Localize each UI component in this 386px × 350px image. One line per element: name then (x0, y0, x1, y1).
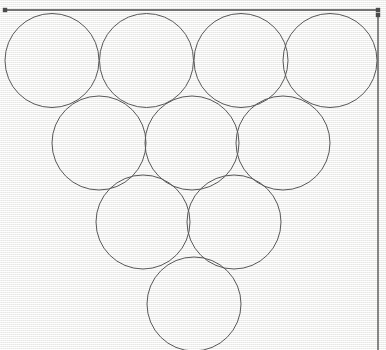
circle-7-row-2 (236, 96, 330, 190)
circle-8-row-3 (96, 175, 190, 269)
circles-group (5, 14, 377, 350)
right-height-dimension-start-marker (376, 13, 380, 17)
dimension-lines-group (3, 8, 380, 350)
circle-9-row-3 (187, 175, 281, 269)
circle-4-row-1 (283, 14, 377, 108)
circle-2-row-1 (100, 14, 194, 108)
circle-packing-vector-layer (0, 0, 386, 350)
top-width-dimension-end-marker (376, 8, 380, 12)
circle-3-row-1 (194, 14, 288, 108)
circle-10-row-4 (147, 257, 241, 350)
top-width-dimension-start-marker (3, 8, 7, 12)
circle-1-row-1 (5, 14, 99, 108)
figure-canvas (0, 0, 386, 350)
